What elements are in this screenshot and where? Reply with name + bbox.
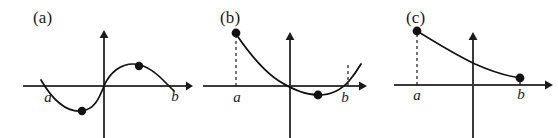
x-axis-arrow-icon — [359, 82, 367, 91]
panel-label-a: (a) — [33, 8, 52, 28]
figure-root: (a) (b) (c) a b a b a b — [0, 0, 558, 138]
tick-label-a-panel-b: a — [233, 89, 241, 106]
curve-a — [41, 64, 174, 111]
point-local-maximum-a — [135, 62, 143, 70]
point-local-minimum-b — [314, 91, 323, 100]
tick-label-b-panel-c: b — [517, 86, 525, 103]
y-axis-arrow-icon — [100, 30, 109, 38]
panel-label-b: (b) — [220, 8, 240, 28]
tick-label-b-panel-b: b — [341, 89, 349, 106]
curve-c — [417, 31, 520, 78]
tick-label-b-panel-a: b — [171, 88, 179, 105]
panel-a — [0, 0, 195, 138]
x-axis-arrow-icon — [545, 81, 553, 90]
point-endpoint-at-b-c — [516, 74, 525, 83]
panel-label-c: (c) — [406, 8, 425, 28]
panel-a-plot — [0, 0, 195, 138]
y-axis-arrow-icon — [286, 32, 295, 40]
x-axis-arrow-icon — [186, 82, 193, 91]
point-endpoint-at-a-b — [232, 29, 241, 38]
tick-label-a-panel-a: a — [44, 89, 52, 106]
tick-label-a-panel-c: a — [413, 87, 421, 104]
y-axis-arrow-icon — [469, 32, 478, 40]
point-local-minimum-a — [78, 107, 86, 115]
